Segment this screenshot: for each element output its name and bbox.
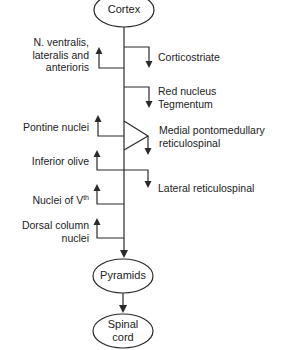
label-nuclei-of-v: Nuclei of Vth xyxy=(32,194,89,207)
label-line: Red nucleus xyxy=(158,85,216,98)
label-n-ventralis: N. ventralis, lateralis and anterioris xyxy=(32,36,89,74)
branch-medial-pontomedullary xyxy=(124,121,148,150)
arrow-up-icon xyxy=(94,184,101,191)
label-dorsal-column-nuclei: Dorsal column nuclei xyxy=(22,219,89,244)
label-line: Corticostriate xyxy=(158,51,220,64)
branch-dorsal-column xyxy=(97,224,124,238)
label-superscript: th xyxy=(83,194,89,201)
label-line: Tegmentum xyxy=(158,98,216,111)
arrow-up-icon xyxy=(96,47,103,54)
branch-pontine-nuclei xyxy=(98,121,124,136)
label-line: Inferior olive xyxy=(32,155,89,168)
label-line: Lateral reticulospinal xyxy=(158,182,254,195)
label-corticostriate: Corticostriate xyxy=(158,51,220,64)
arrow-up-icon xyxy=(94,150,101,157)
arrow-down-icon xyxy=(146,61,153,68)
branch-red-nucleus xyxy=(124,87,149,102)
arrow-down-icon xyxy=(120,250,128,258)
label-line: Pontine nuclei xyxy=(23,121,89,134)
arrow-down-icon xyxy=(145,148,152,155)
arrow-down-icon xyxy=(146,101,153,108)
arrow-down-icon xyxy=(145,181,152,188)
pyramids-node: Pyramids xyxy=(93,269,153,282)
label-line: nuclei xyxy=(22,232,89,245)
branch-nuclei-of-v xyxy=(97,190,124,204)
spinal-cord-node: Spinal cord xyxy=(93,318,153,344)
label-inferior-olive: Inferior olive xyxy=(32,155,89,168)
label-line: anterioris xyxy=(32,61,89,74)
arrow-up-icon xyxy=(94,218,101,225)
label-line: lateralis and xyxy=(32,49,89,62)
branch-corticostriate xyxy=(124,47,149,62)
spinal-cord-label-line1: Spinal xyxy=(93,318,153,331)
cortex-node: Cortex xyxy=(94,3,154,16)
label-line: Dorsal column xyxy=(22,219,89,232)
label-lateral-reticulospinal: Lateral reticulospinal xyxy=(158,182,254,195)
label-line: N. ventralis, xyxy=(32,36,89,49)
arrow-down-icon xyxy=(119,305,127,313)
label-line: Nuclei of V xyxy=(32,194,83,206)
cortex-label: Cortex xyxy=(108,3,140,15)
label-line: reticulospinal xyxy=(159,137,265,150)
label-medial-pontomedullary: Medial pontomedullary reticulospinal xyxy=(159,124,265,149)
arrow-up-icon xyxy=(95,115,102,122)
branch-lateral-reticulospinal xyxy=(124,170,148,182)
label-red-nucleus-tegmentum: Red nucleus Tegmentum xyxy=(158,85,216,110)
label-pontine-nuclei: Pontine nuclei xyxy=(23,121,89,134)
spinal-cord-label-line2: cord xyxy=(93,331,153,344)
branch-n-ventralis xyxy=(99,53,124,68)
branch-inferior-olive xyxy=(97,156,124,170)
label-line: Medial pontomedullary xyxy=(159,124,265,137)
pyramids-label: Pyramids xyxy=(100,269,146,281)
